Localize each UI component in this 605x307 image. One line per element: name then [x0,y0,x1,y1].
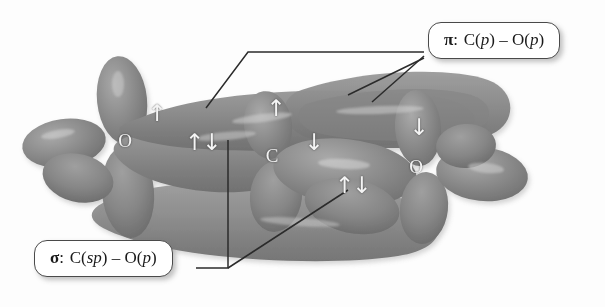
pi-callout: π: C(p) – O(p) [428,22,560,59]
sigma-dash: – [112,248,121,267]
pi-left-atom: C [464,30,475,49]
pi-dash: – [499,30,508,49]
sigma-separator: : [59,248,64,267]
molecular-orbital-figure: O C O ↑ ↑↓ ↑ ↓ ↑↓ ↓ π: C(p) – O(p) σ: C(… [0,0,605,307]
sigma-right-orbital: p [142,248,151,267]
pi-right-atom: O [512,30,524,49]
sigma-symbol: σ [50,248,59,267]
sigma-left-orbital: sp [87,248,102,267]
sigma-right-atom: O [124,248,136,267]
pi-separator: : [453,30,458,49]
sigma-callout: σ: C(sp) – O(p) [34,240,173,277]
orbital-lobe-group [19,54,531,262]
sigma-left-atom: C [70,248,81,267]
pi-left-orbital: p [481,30,490,49]
pi-symbol: π [444,30,453,49]
pi-right-orbital: p [530,30,539,49]
